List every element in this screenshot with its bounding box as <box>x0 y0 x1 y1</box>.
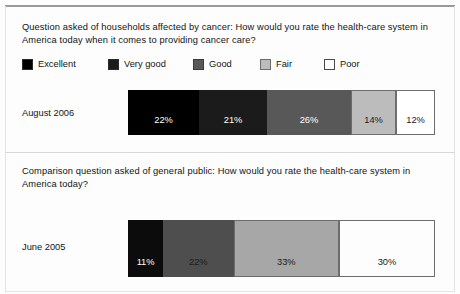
legend-swatch-good <box>193 59 204 70</box>
bar-segment-poor: 12% <box>396 90 435 135</box>
bar-segment-value-excellent-2005: 11% <box>137 257 155 276</box>
legend-label-very-good: Very good <box>124 59 166 70</box>
frame-bottom-edge <box>5 291 455 292</box>
chart-page: Question asked of households affected by… <box>0 0 460 294</box>
legend-item-fair: Fair <box>260 59 292 70</box>
legend-swatch-fair <box>260 59 271 70</box>
bar-segment-fair: 14% <box>351 90 396 135</box>
bar-segment-value-poor: 12% <box>406 115 425 134</box>
legend-item-excellent: Excellent <box>22 59 76 70</box>
legend-label-good: Good <box>209 59 232 70</box>
question-text-general-public: Comparison question asked of general pub… <box>22 165 434 191</box>
bar-segment-good-2005: 33% <box>234 220 340 277</box>
bar-segment-very-good: 21% <box>199 90 267 135</box>
bar-segment-excellent-2005: 11% <box>128 220 163 277</box>
bar-segment-value-good: 26% <box>300 115 319 134</box>
legend-item-poor: Poor <box>324 59 360 70</box>
row-label-june-2005: June 2005 <box>22 242 65 252</box>
bar-segment-value-fair: 14% <box>364 115 383 134</box>
legend-item-very-good: Very good <box>108 59 166 70</box>
bar-segment-value-excellent: 22% <box>154 115 173 134</box>
chart-legend: Excellent Very good Good Fair Poor <box>22 59 434 73</box>
top-rule-divider <box>5 5 455 7</box>
row-label-august-2006: August 2006 <box>22 108 74 118</box>
bar-segment-value-very-good: 21% <box>224 115 243 134</box>
legend-swatch-excellent <box>22 59 33 70</box>
legend-swatch-very-good <box>108 59 119 70</box>
bar-segment-poor-2005: 30% <box>339 220 435 277</box>
legend-label-excellent: Excellent <box>38 59 76 70</box>
chart-row-june-2005: June 2005 11% 22% 33% 30% <box>0 220 460 278</box>
bar-segment-value-good-2005: 33% <box>277 257 296 276</box>
bar-segment-excellent: 22% <box>128 90 199 135</box>
legend-swatch-poor <box>324 59 335 70</box>
legend-item-good: Good <box>193 59 232 70</box>
section-divider <box>5 152 455 153</box>
stacked-bar-august-2006: 22% 21% 26% 14% 12% <box>128 90 435 135</box>
legend-label-fair: Fair <box>276 59 292 70</box>
bar-segment-value-poor-2005: 30% <box>378 257 397 276</box>
bar-segment-very-good-2005: 22% <box>163 220 233 277</box>
question-text-cancer-households: Question asked of households affected by… <box>22 21 434 47</box>
bar-segment-value-very-good-2005: 22% <box>189 257 208 276</box>
bar-segment-good: 26% <box>267 90 351 135</box>
stacked-bar-june-2005: 11% 22% 33% 30% <box>128 220 435 277</box>
legend-label-poor: Poor <box>340 59 360 70</box>
chart-row-august-2006: August 2006 22% 21% 26% 14% 12% <box>0 90 460 136</box>
